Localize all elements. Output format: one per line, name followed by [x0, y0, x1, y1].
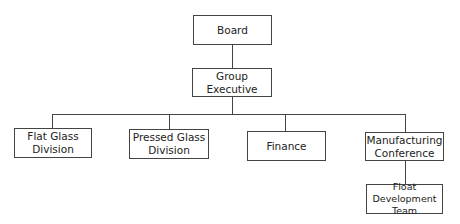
node-label: Pressed Glass Division: [131, 131, 207, 157]
node-float-development-team: Float Development Team: [366, 184, 443, 214]
connector-flat-glass: [52, 114, 53, 128]
node-label: Manufacturing Conference: [366, 134, 443, 160]
node-finance: Finance: [247, 131, 326, 161]
org-chart: Board Group Executive Flat Glass Divisio…: [0, 0, 460, 224]
connector-manufacturing: [405, 114, 406, 132]
node-board: Board: [193, 15, 272, 45]
node-pressed-glass-division: Pressed Glass Division: [129, 129, 209, 159]
node-label: Float Development Team: [367, 181, 442, 217]
node-label: Flat Glass Division: [20, 130, 86, 156]
node-label: Finance: [266, 140, 306, 153]
node-label: Group Executive: [202, 70, 262, 96]
connector-exec-down: [232, 96, 233, 115]
connector-pressed-glass: [169, 114, 170, 129]
connector-board-exec: [232, 44, 233, 68]
node-group-executive: Group Executive: [192, 68, 272, 97]
node-manufacturing-conference: Manufacturing Conference: [365, 132, 444, 161]
node-flat-glass-division: Flat Glass Division: [14, 128, 92, 158]
connector-finance: [285, 114, 286, 131]
node-label: Board: [217, 24, 248, 37]
connector-horizontal-bus: [52, 114, 406, 115]
